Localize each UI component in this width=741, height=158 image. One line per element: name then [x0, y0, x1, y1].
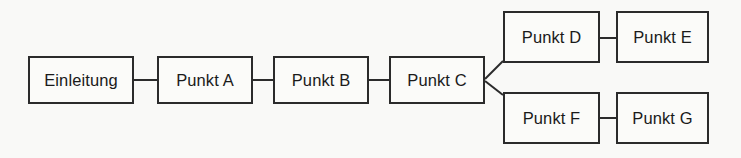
- node-punkt-f[interactable]: Punkt F: [503, 92, 600, 144]
- node-punkt-a[interactable]: Punkt A: [157, 56, 253, 104]
- node-label-punkt-d: Punkt D: [522, 28, 581, 45]
- node-label-punkt-g: Punkt G: [632, 109, 692, 126]
- node-label-punkt-f: Punkt F: [523, 109, 581, 126]
- node-punkt-g[interactable]: Punkt G: [616, 92, 709, 144]
- node-punkt-b[interactable]: Punkt B: [273, 56, 369, 104]
- node-einleitung[interactable]: Einleitung: [28, 56, 134, 104]
- node-label-punkt-c: Punkt C: [407, 71, 466, 88]
- node-label-punkt-b: Punkt B: [292, 71, 350, 88]
- node-label-einleitung: Einleitung: [44, 71, 117, 88]
- node-punkt-d[interactable]: Punkt D: [503, 11, 600, 63]
- connector-punkt-c-to-punkt-d: [485, 61, 503, 79]
- diagram-canvas: EinleitungPunkt APunkt BPunkt CPunkt DPu…: [0, 0, 741, 158]
- node-label-punkt-a: Punkt A: [176, 71, 234, 88]
- connector-punkt-c-to-punkt-f: [485, 81, 503, 95]
- node-label-punkt-e: Punkt E: [633, 28, 691, 45]
- node-punkt-c[interactable]: Punkt C: [389, 56, 485, 104]
- node-punkt-e[interactable]: Punkt E: [616, 11, 709, 63]
